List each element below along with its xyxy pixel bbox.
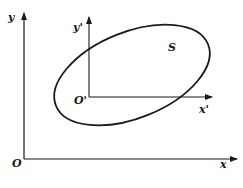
local-x-label: x' <box>198 103 209 116</box>
global-origin-label: O <box>12 157 22 170</box>
global-y-label: y <box>7 11 16 24</box>
global-x-label: x <box>219 158 227 171</box>
coordinate-diagram: y O x y' O' x' S <box>0 0 243 188</box>
local-y-label: y' <box>72 21 83 34</box>
local-origin-label: O' <box>74 94 87 107</box>
region-s-ellipse <box>40 4 224 145</box>
region-label: S <box>168 41 176 54</box>
